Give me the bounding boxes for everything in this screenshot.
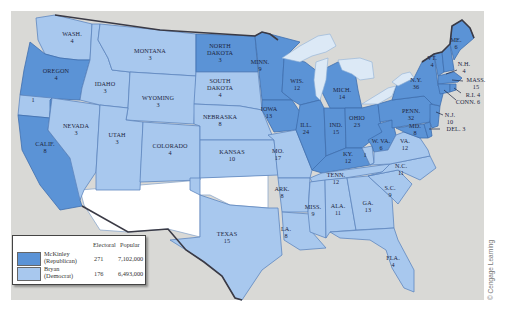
legend: Electoral Popular McKinley(Republican) 2… [12,235,146,285]
svg-text:3: 3 [103,87,106,94]
svg-text:W. VA.: W. VA. [372,137,391,144]
svg-text:4: 4 [462,67,465,74]
svg-text:S.C.: S.C. [384,184,395,191]
svg-text:SOUTH: SOUTH [209,77,231,84]
svg-text:NEVADA: NEVADA [63,122,89,129]
state-kansas [200,140,278,178]
svg-text:MD.: MD. [409,122,421,129]
state-florida [330,228,414,292]
svg-text:N.Y.: N.Y. [410,76,422,83]
svg-text:DAKOTA: DAKOTA [207,49,234,56]
svg-text:12: 12 [345,157,351,164]
copyright-credit: © Cengage Learning [487,240,494,300]
svg-text:3: 3 [74,129,77,136]
svg-text:8: 8 [284,232,287,239]
legend-header-electoral: Electoral [93,241,116,248]
svg-text:PENN.: PENN. [402,107,421,114]
svg-text:ME.: ME. [450,36,461,43]
legend-electoral-votes: 176 [94,270,103,277]
svg-text:VT.: VT. [427,54,437,61]
state-calif-north [18,95,52,118]
svg-text:12: 12 [333,178,339,185]
svg-text:4: 4 [218,91,221,98]
svg-text:NEBRASKA: NEBRASKA [203,113,238,120]
svg-text:NORTH: NORTH [209,42,231,49]
svg-text:IND.: IND. [330,121,343,128]
svg-text:MISS.: MISS. [305,203,322,210]
svg-text:TENN.: TENN. [327,171,346,178]
svg-text:WASH.: WASH. [62,30,82,37]
svg-text:CALIF.: CALIF. [35,140,55,147]
svg-text:WIS.: WIS. [290,77,304,84]
svg-text:LA.: LA. [281,225,291,232]
svg-text:ARK.: ARK. [274,185,289,192]
svg-text:UTAH: UTAH [108,131,126,138]
svg-text:FLA.: FLA. [386,254,400,261]
svg-text:MASS.: MASS. [467,76,486,83]
legend-party-name: (Democrat) [44,272,73,279]
svg-text:3: 3 [148,54,151,61]
svg-text:9: 9 [311,210,314,217]
svg-text:VA.: VA. [400,137,410,144]
legend-popular-votes: 7,102,000 [118,255,143,262]
svg-text:OHIO: OHIO [349,114,365,121]
svg-text:WYOMING: WYOMING [142,94,174,101]
svg-text:DEL. 3: DEL. 3 [447,125,466,132]
svg-text:ALA.: ALA. [331,202,346,209]
svg-text:3: 3 [218,56,221,63]
svg-text:17: 17 [275,154,281,161]
svg-text:4: 4 [391,261,394,268]
svg-text:8: 8 [413,129,416,136]
state-connecticut [438,84,450,94]
svg-text:13: 13 [365,206,371,213]
svg-text:9: 9 [388,191,391,198]
svg-text:MONTANA: MONTANA [134,47,166,54]
svg-text:IOWA: IOWA [261,105,278,112]
svg-text:13: 13 [266,112,272,119]
svg-text:MICH.: MICH. [333,86,352,93]
svg-text:32: 32 [408,114,414,121]
svg-text:1: 1 [31,96,34,103]
legend-electoral-votes: 271 [94,255,103,262]
svg-text:ILL.: ILL. [300,121,312,128]
svg-text:N.C.: N.C. [395,162,407,169]
svg-text:9: 9 [258,65,261,72]
svg-text:6: 6 [379,144,382,151]
svg-text:36: 36 [413,83,419,90]
svg-text:12: 12 [402,144,408,151]
republican-swatch [17,252,41,266]
svg-text:11: 11 [398,169,404,176]
svg-text:15: 15 [473,83,479,90]
svg-text:4: 4 [168,149,171,156]
state-new-jersey [430,104,440,128]
svg-text:IDAHO: IDAHO [95,80,116,87]
legend-party-name: (Republican) [44,257,77,264]
svg-text:DAKOTA: DAKOTA [207,84,234,91]
svg-text:GA.: GA. [363,199,374,206]
svg-text:11: 11 [335,209,341,216]
state-rhode-island [450,84,456,92]
svg-text:10: 10 [447,118,453,125]
svg-text:15: 15 [224,237,230,244]
svg-text:14: 14 [339,93,345,100]
svg-text:MINN.: MINN. [251,58,270,65]
svg-text:23: 23 [354,121,360,128]
svg-text:N.H.: N.H. [458,60,471,67]
svg-text:COLORADO: COLORADO [152,142,188,149]
svg-text:KY.: KY. [343,150,353,157]
svg-text:N.J.: N.J. [445,111,456,118]
legend-row-republican: McKinley(Republican) 271 7,102,000 [17,252,143,266]
svg-text:1: 1 [363,151,366,158]
svg-text:8: 8 [218,120,221,127]
svg-text:KANSAS: KANSAS [219,148,245,155]
svg-text:3: 3 [156,101,159,108]
svg-text:4: 4 [430,61,433,68]
legend-row-democrat: Bryan(Democrat) 176 6,493,000 [17,267,143,281]
svg-text:TEXAS: TEXAS [217,230,238,237]
svg-text:12: 12 [294,84,300,91]
svg-text:R.I. 4: R.I. 4 [466,91,481,98]
svg-text:8: 8 [280,192,283,199]
democrat-swatch [17,267,41,281]
legend-popular-votes: 6,493,000 [118,270,143,277]
svg-text:4: 4 [70,37,73,44]
